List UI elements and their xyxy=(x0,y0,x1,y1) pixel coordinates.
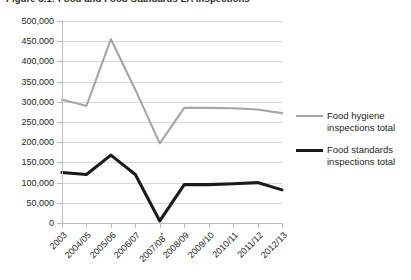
legend-item[interactable]: Food hygiene inspections total xyxy=(296,110,408,133)
y-axis-tick xyxy=(57,122,62,123)
legend-swatch xyxy=(296,149,323,152)
y-axis-tick xyxy=(57,82,62,83)
y-axis-tick xyxy=(57,183,62,184)
x-axis-labels: 20032004/052005/062006/072007/08*2008/09… xyxy=(62,228,292,278)
legend-swatch xyxy=(296,115,323,117)
y-axis-tick xyxy=(57,142,62,143)
y-axis-tick-label: 150,000 xyxy=(0,158,54,167)
y-axis-tick xyxy=(57,203,62,204)
y-axis-tick-label: 500,000 xyxy=(0,17,54,26)
y-axis-tick-label: 350,000 xyxy=(0,77,54,86)
y-axis-tick-label: 450,000 xyxy=(0,37,54,46)
y-axis-tick xyxy=(57,162,62,163)
y-axis-line xyxy=(62,21,63,224)
y-axis-labels: 500,000450,000400,000350,000300,000250,0… xyxy=(0,21,54,223)
series-line xyxy=(62,39,282,143)
legend-item[interactable]: Food standards inspections total xyxy=(296,144,408,167)
y-axis-ticks xyxy=(57,21,62,223)
y-axis-tick xyxy=(57,41,62,42)
y-axis-tick-label: 100,000 xyxy=(0,178,54,187)
series-layer xyxy=(62,21,282,223)
y-axis-tick-label: 300,000 xyxy=(0,97,54,106)
legend-label: Food hygiene inspections total xyxy=(327,110,408,133)
y-axis-tick-label: 0 xyxy=(0,219,54,228)
y-axis-tick xyxy=(57,21,62,22)
y-axis-tick xyxy=(57,61,62,62)
legend: Food hygiene inspections totalFood stand… xyxy=(296,110,408,178)
legend-label: Food standards inspections total xyxy=(327,144,408,167)
y-axis-tick-label: 200,000 xyxy=(0,138,54,147)
figure-title: Figure 3.1: Food and Food Standards LA I… xyxy=(6,0,250,4)
series-line xyxy=(62,155,282,221)
plot-area xyxy=(62,21,282,223)
y-axis-tick-label: 50,000 xyxy=(0,198,54,207)
figure-container: Figure 3.1: Food and Food Standards LA I… xyxy=(0,0,411,280)
y-axis-tick xyxy=(57,102,62,103)
y-axis-tick-label: 400,000 xyxy=(0,57,54,66)
y-axis-tick-label: 250,000 xyxy=(0,118,54,127)
